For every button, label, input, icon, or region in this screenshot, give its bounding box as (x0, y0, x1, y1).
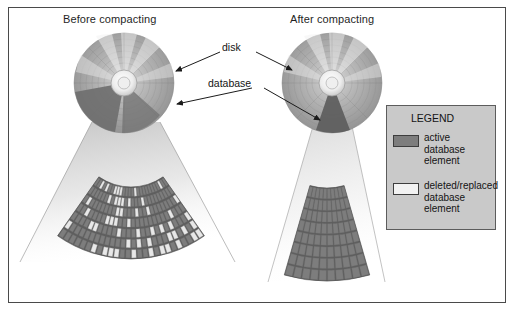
fan-cell-active (332, 212, 337, 222)
fan-cell-active (124, 198, 127, 206)
legend-title: LEGEND (411, 112, 454, 124)
fan-cell-active (334, 235, 340, 245)
disk-after (282, 33, 382, 133)
fan-cell-active (328, 247, 334, 257)
fan-cell-active (132, 229, 136, 237)
panel-title-before: Before compacting (63, 13, 156, 25)
fan-cell-active (327, 224, 332, 234)
fan-cell-active (335, 258, 342, 268)
fan-cell-active (135, 198, 138, 206)
fan-cell-active (320, 258, 327, 268)
fan-cell-deleted (135, 208, 139, 216)
fan-cell-active (131, 219, 135, 227)
compacting-diagram: Before compacting After compacting disk … (0, 0, 514, 312)
fan-cell-active (132, 239, 136, 247)
panel-title-after: After compacting (290, 13, 374, 25)
fan-cell-active (127, 209, 130, 217)
fan-cell-active (127, 229, 131, 237)
fan-cell-deleted (126, 239, 130, 247)
fan-cell-active (321, 224, 326, 234)
fan-cell-active (327, 235, 333, 245)
fan-cell-active (323, 200, 327, 210)
fan-cell-active (322, 212, 327, 222)
fan-cell-active (323, 189, 326, 199)
fan-cell-active (328, 270, 335, 280)
fan-cell-active (136, 219, 140, 227)
fan-cell-active (321, 235, 327, 245)
fan-cell-active (313, 246, 320, 256)
fan-cell-active (123, 208, 127, 216)
fan-cell-active (126, 250, 131, 258)
fan-cell-active (120, 249, 125, 257)
fan-cell-active (319, 270, 326, 280)
fan-cell-active (311, 269, 319, 279)
fan-cell-active (123, 219, 127, 227)
legend-label-deleted-line2: database (424, 192, 498, 204)
fan-cell-active (315, 223, 321, 233)
legend-label-active-line3: element (424, 155, 465, 167)
legend-swatch-deleted (393, 183, 419, 195)
fan-cell-active (121, 239, 126, 247)
fan-cell-active (334, 246, 341, 256)
fan-cell-active (128, 188, 130, 196)
fan-cell-active (143, 249, 148, 258)
fan-cell-active (327, 189, 330, 199)
fan-cell-active (344, 268, 352, 279)
fan-cell-active (336, 269, 344, 279)
fan-cell-active (317, 212, 322, 222)
label-database: database (208, 77, 251, 89)
arrow-database-left (177, 88, 252, 104)
fan-cell-active (131, 198, 134, 206)
fan-cell-active (312, 258, 319, 268)
fan-cell-active (328, 258, 335, 268)
legend-label-deleted-line1: deleted/replaced (424, 180, 498, 192)
fan-cell-active (327, 212, 332, 222)
legend-label-deleted-line3: element (424, 203, 498, 215)
fan-cell-active (137, 249, 142, 257)
fan-cell-active (122, 229, 126, 237)
legend-label-active: active database element (424, 132, 465, 167)
legend-label-active-line1: active (424, 132, 465, 144)
fan-cell-deleted (136, 229, 140, 237)
legend-label-active-line2: database (424, 144, 465, 156)
fan-cell-deleted (128, 198, 131, 206)
fan-cell-deleted (137, 239, 142, 247)
legend: LEGEND active database element deleted/r… (386, 105, 496, 230)
fan-cell-deleted (114, 249, 119, 258)
legend-swatch-active (393, 135, 419, 147)
fan-cell-active (131, 209, 134, 217)
label-disk: disk (222, 41, 241, 53)
fan-cell-active (302, 268, 310, 279)
fan-cell-active (314, 235, 320, 245)
disk-before (74, 33, 174, 133)
fan-cell-deleted (127, 219, 131, 227)
fan-cell-active (320, 247, 326, 257)
fan-cell-active (333, 223, 339, 233)
fan-cell-active (131, 188, 133, 196)
arrow-disk-left (176, 52, 220, 71)
legend-label-deleted: deleted/replaced database element (424, 180, 498, 215)
fan-cell-active (327, 200, 331, 210)
fan-cell-deleted (132, 250, 137, 258)
